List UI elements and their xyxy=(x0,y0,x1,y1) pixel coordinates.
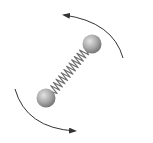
diagram-canvas xyxy=(0,0,153,143)
atom-top-right xyxy=(83,35,102,54)
atom-bottom-left xyxy=(37,89,56,108)
spring-bond xyxy=(51,50,89,94)
molecule-rotation-diagram: rotating diatomic molecule xyxy=(0,0,153,143)
